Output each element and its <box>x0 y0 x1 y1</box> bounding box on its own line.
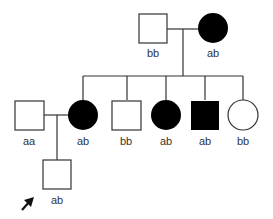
g2-daughter1-symbol <box>68 100 98 130</box>
g2-daughter3-label: bb <box>237 135 249 147</box>
g1-mother-label: ab <box>207 47 219 59</box>
g1-father-label: bb <box>147 47 159 59</box>
g2-husband-label: aa <box>23 135 36 147</box>
pedigree-chart: bb ab aa ab bb ab ab bb ab <box>0 0 273 219</box>
g2-son1-label: bb <box>120 135 132 147</box>
g3-son-label: ab <box>51 194 63 206</box>
g1-father-symbol <box>139 14 167 43</box>
g2-son2-symbol <box>191 101 219 130</box>
g2-daughter2-symbol <box>151 100 181 130</box>
g2-husband-symbol <box>15 101 44 130</box>
g3-son-symbol <box>43 160 71 189</box>
proband-arrow-icon <box>22 197 34 210</box>
g2-daughter2-label: ab <box>160 135 172 147</box>
g2-daughter3-symbol <box>228 100 258 130</box>
g2-daughter1-label: ab <box>77 135 89 147</box>
g2-son1-symbol <box>112 101 141 130</box>
g2-son2-label: ab <box>199 135 211 147</box>
g1-mother-symbol <box>198 13 228 43</box>
